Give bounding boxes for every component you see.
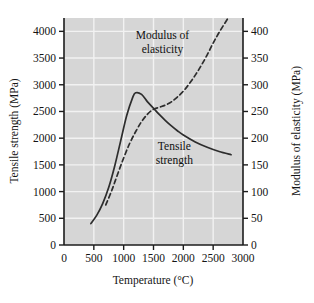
annotation-label-line1: Modulus of bbox=[136, 29, 190, 41]
tick-label-right: 400 bbox=[251, 25, 269, 37]
tick-label-right: 350 bbox=[251, 52, 269, 64]
x-axis-title: Temperature (°C) bbox=[113, 274, 194, 287]
tick-label-left: 500 bbox=[39, 212, 57, 224]
tick-label-x: 1000 bbox=[112, 252, 135, 264]
tick-label-right: 150 bbox=[251, 159, 269, 171]
tick-label-left: 3500 bbox=[33, 52, 56, 64]
tick-label-x: 3000 bbox=[232, 252, 255, 264]
tick-label-x: 0 bbox=[61, 252, 67, 264]
tick-label-x: 1500 bbox=[142, 252, 165, 264]
tick-label-right: 300 bbox=[251, 79, 269, 91]
tick-label-left: 1000 bbox=[33, 186, 56, 198]
tick-label-left: 1500 bbox=[33, 159, 56, 171]
right-axis-tick-labels: 050100150200250300350400 bbox=[251, 25, 269, 251]
y-axis-title-right: Modulus of elasticity (MPa) bbox=[290, 66, 303, 196]
tick-label-left: 2500 bbox=[33, 105, 56, 117]
tick-label-right: 250 bbox=[251, 105, 269, 117]
tick-label-x: 2500 bbox=[202, 252, 225, 264]
y-axis-title-left: Tensile strength (MPa) bbox=[8, 78, 21, 183]
tick-label-left: 3000 bbox=[33, 79, 56, 91]
chart-canvas: 05001000150020002500300035004000 0501001… bbox=[0, 0, 314, 303]
chart-figure: 05001000150020002500300035004000 0501001… bbox=[0, 0, 314, 303]
annotation-label-line1: Tensile bbox=[158, 140, 191, 152]
tick-label-x: 500 bbox=[85, 252, 103, 264]
annotation-label-line2: strength bbox=[156, 154, 193, 167]
tick-label-left: 2000 bbox=[33, 132, 56, 144]
tick-label-right: 50 bbox=[251, 212, 263, 224]
tick-label-x: 2000 bbox=[172, 252, 195, 264]
annotation-label-line2: elasticity bbox=[142, 43, 184, 56]
tick-label-right: 200 bbox=[251, 132, 269, 144]
tick-label-left: 4000 bbox=[33, 25, 56, 37]
tick-label-right: 0 bbox=[251, 239, 257, 251]
x-axis-tick-labels: 050010001500200025003000 bbox=[61, 252, 255, 264]
left-axis-tick-labels: 05001000150020002500300035004000 bbox=[33, 25, 56, 251]
tick-label-right: 100 bbox=[251, 186, 269, 198]
tick-label-left: 0 bbox=[50, 239, 56, 251]
